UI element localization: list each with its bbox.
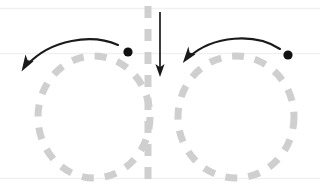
figure-canvas [0,0,320,189]
right-marker-dot [283,50,292,59]
diagram-svg [0,0,320,189]
left-marker-dot [123,47,132,56]
